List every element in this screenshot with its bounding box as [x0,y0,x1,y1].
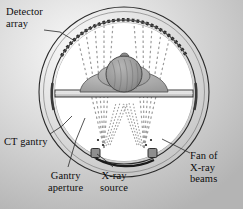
label-detector-array: Detector array [6,6,43,29]
label-xray-source: X-ray source [100,170,128,193]
label-gantry-aperture: Gantry aperture [48,170,83,193]
label-ct-gantry: CT gantry [4,136,48,148]
xray-source-left [91,149,100,158]
xray-source-right [148,149,157,158]
ct-diagram-canvas: Detector array CT gantry Gantry aperture… [0,0,243,209]
label-fan-of-xray-beams: Fan of X-ray beams [190,150,218,185]
